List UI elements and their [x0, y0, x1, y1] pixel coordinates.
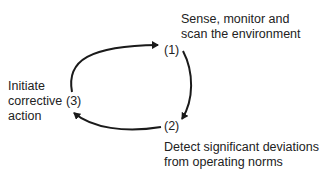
- desc-line: action: [8, 109, 62, 124]
- arrow-2-to-3: [74, 113, 161, 129]
- desc-line: from operating norms: [164, 155, 319, 170]
- desc-line: Sense, monitor and: [181, 12, 301, 27]
- node-3-description: Initiate corrective action: [8, 79, 62, 124]
- arrow-3-to-1: [71, 45, 158, 92]
- node-1-description: Sense, monitor and scan the environment: [181, 12, 301, 42]
- node-3-label: (3): [66, 94, 81, 109]
- arrow-1-to-2: [182, 51, 191, 119]
- desc-line: Initiate: [8, 79, 62, 94]
- node-2-label: (2): [164, 119, 179, 134]
- node-2-description: Detect significant deviations from opera…: [164, 140, 319, 170]
- desc-line: corrective: [8, 94, 62, 109]
- node-1-label: (1): [164, 43, 179, 58]
- desc-line: Detect significant deviations: [164, 140, 319, 155]
- desc-line: scan the environment: [181, 27, 301, 42]
